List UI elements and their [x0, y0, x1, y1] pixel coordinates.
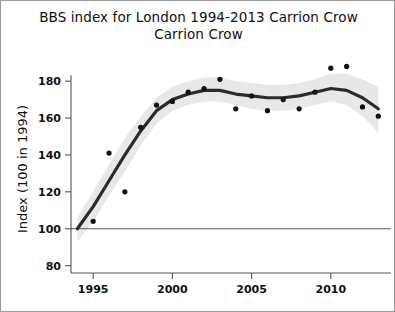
data-point [328, 66, 333, 71]
y-tick-label: 100 [38, 223, 61, 236]
data-point [249, 93, 254, 98]
data-point [138, 125, 143, 130]
data-point [297, 106, 302, 111]
x-axis-ticks [93, 273, 331, 279]
data-point [154, 103, 159, 108]
data-point [217, 77, 222, 82]
data-point [233, 106, 238, 111]
data-point [91, 219, 96, 224]
y-axis-ticks [65, 81, 71, 265]
data-point [265, 108, 270, 113]
x-tick-label: 2000 [157, 283, 188, 296]
trend-line [77, 89, 378, 229]
data-point [122, 189, 127, 194]
x-axis-tick-labels: 1995200020052010 [78, 283, 347, 296]
data-point [376, 114, 381, 119]
y-tick-label: 180 [38, 75, 61, 88]
y-axis-title: Index (100 in 1994) [15, 105, 30, 233]
data-point [360, 104, 365, 109]
data-point [170, 99, 175, 104]
chart-figure: BBS index for London 1994-2013 Carrion C… [0, 0, 395, 312]
chart-plot-area: 80100120140160180 1995200020052010 Index… [1, 1, 395, 312]
data-point [281, 97, 286, 102]
x-tick-label: 2010 [315, 283, 346, 296]
y-tick-label: 80 [46, 260, 62, 273]
x-tick-label: 1995 [78, 283, 109, 296]
data-point [201, 86, 206, 91]
data-point [312, 90, 317, 95]
data-point [344, 64, 349, 69]
y-tick-label: 140 [38, 149, 61, 162]
y-tick-label: 120 [38, 186, 61, 199]
data-point [106, 150, 111, 155]
x-tick-label: 2005 [236, 283, 267, 296]
y-tick-label: 160 [38, 112, 61, 125]
data-point [186, 90, 191, 95]
y-axis-tick-labels: 80100120140160180 [38, 75, 61, 272]
